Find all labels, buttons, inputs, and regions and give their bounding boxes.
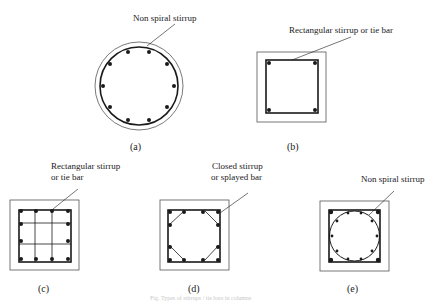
annotation-e: Non spiral stirrup: [361, 174, 425, 184]
section-outline-circle: [95, 42, 183, 130]
longitudinal-bars: [267, 61, 317, 112]
annotation-d-line1: Closed stirrup: [212, 161, 263, 171]
annotation-c-line2: or tie bar: [51, 172, 83, 182]
annotation-a: Non spiral stirrup: [133, 13, 197, 23]
splayed-bars: [169, 211, 219, 260]
annotation-b: Rectangular stirrup or tie bar: [289, 25, 393, 35]
figure-caption: Fig. Types of stirrups / tie bars in col…: [150, 295, 252, 301]
internal-ties: [19, 210, 71, 262]
circular-stirrup: [100, 47, 178, 125]
panel-label-c: (c): [38, 283, 49, 295]
annotation-c-line1: Rectangular stirrup: [51, 161, 121, 171]
panel-label-b: (b): [287, 141, 299, 153]
panel-a: Non spiral stirrup (a): [95, 13, 197, 153]
rectangular-stirrup: [19, 210, 71, 262]
panel-label-e: (e): [347, 283, 358, 295]
leader-line: [292, 37, 351, 60]
panel-e: Non spiral stirrup (e): [320, 174, 425, 295]
longitudinal-bars: [19, 209, 70, 261]
stirrup-diagram: Non spiral stirrup (a) Rectangular stirr…: [0, 0, 437, 304]
leader-line: [369, 191, 394, 215]
circle-bars: [331, 212, 379, 261]
leader-line: [220, 193, 248, 213]
panel-label-d: (d): [188, 283, 200, 295]
panel-b: Rectangular stirrup or tie bar (b): [257, 25, 393, 153]
annotation-d-line2: or splayed bar: [211, 172, 262, 182]
leader-line: [147, 24, 175, 46]
corner-bars: [329, 210, 380, 262]
panel-d: Closed stirrup or splayed bar (d): [160, 161, 263, 295]
panel-c: Rectangular stirrup or tie bar (c): [10, 161, 121, 295]
longitudinal-bars: [101, 50, 176, 122]
circular-stirrup: [330, 211, 380, 261]
panel-label-a: (a): [130, 141, 141, 153]
rectangular-stirrup: [266, 60, 318, 113]
leader-line: [53, 189, 78, 209]
